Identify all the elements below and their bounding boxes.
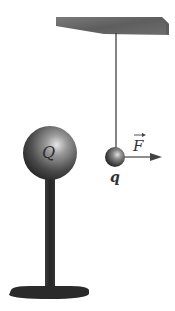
- test-charge-label: q: [110, 169, 120, 185]
- ceiling-support: [56, 17, 169, 35]
- force-label: F: [132, 137, 144, 155]
- insulating-stand: [9, 176, 89, 299]
- stand-pole: [45, 176, 55, 290]
- physics-diagram: Q F q: [0, 0, 175, 311]
- test-charge-ball: [105, 147, 125, 167]
- stand-base: [9, 286, 89, 299]
- source-charge-label: Q: [42, 143, 55, 162]
